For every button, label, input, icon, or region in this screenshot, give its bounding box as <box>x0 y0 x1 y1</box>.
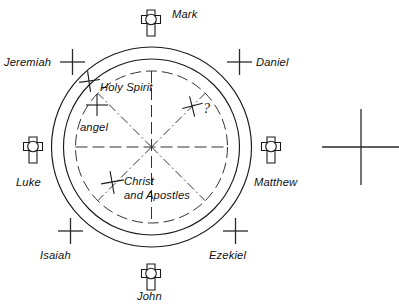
tympanum-scheme-drawing: Mark Matthew John Luke <box>0 0 399 304</box>
plus-cross-icon <box>322 109 399 185</box>
matthew-symbol <box>262 137 281 163</box>
jeremiah-cross <box>60 49 85 75</box>
ringed-cross-icon <box>142 10 161 36</box>
plus-cross-icon <box>227 49 252 75</box>
plus-cross-icon <box>58 218 83 244</box>
angel-label: angel <box>80 121 108 133</box>
ringed-cross-icon <box>262 137 281 163</box>
christ-label: Christ <box>124 175 155 187</box>
christ-apostles-cross <box>99 169 126 196</box>
spoke-ne <box>152 93 206 147</box>
diagram-canvas: Mark Matthew John Luke <box>0 0 399 304</box>
ringed-cross-icon <box>24 137 43 163</box>
holy-spirit-label: Holy Spirit <box>100 81 153 93</box>
holy-spirit-cross <box>78 70 102 94</box>
matthew-label: Matthew <box>254 176 298 188</box>
ringed-cross-icon <box>142 264 161 290</box>
luke-label: Luke <box>16 176 41 188</box>
mark-symbol <box>142 10 161 36</box>
jeremiah-label: Jeremiah <box>3 56 51 68</box>
plus-cross-icon <box>78 70 102 94</box>
ezekiel-label: Ezekiel <box>209 249 246 261</box>
john-symbol <box>142 264 161 290</box>
scale-cross <box>322 109 399 185</box>
daniel-cross <box>227 49 252 75</box>
plus-cross-icon <box>223 218 248 244</box>
plus-cross-icon <box>60 49 85 75</box>
plus-cross-icon <box>99 169 126 196</box>
isaiah-label: Isaiah <box>40 249 71 261</box>
luke-symbol <box>24 137 43 163</box>
plus-cross-icon <box>86 94 108 116</box>
ezekiel-cross <box>223 218 248 244</box>
angel-cross <box>86 94 108 116</box>
mark-label: Mark <box>172 8 199 20</box>
isaiah-cross <box>58 218 83 244</box>
apostles-label: and Apostles <box>124 189 190 201</box>
unknown-label: ? <box>203 101 210 116</box>
daniel-label: Daniel <box>256 56 289 68</box>
john-label: John <box>136 290 162 302</box>
